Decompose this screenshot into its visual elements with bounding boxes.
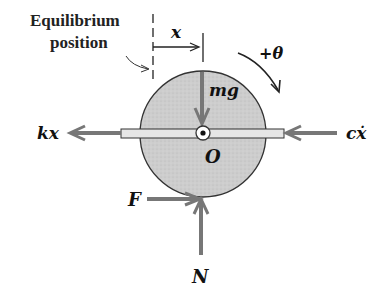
center-pin-dot xyxy=(200,130,205,135)
rotation-label: +θ xyxy=(259,44,283,63)
weight-label: mg xyxy=(209,80,239,100)
center-label: O xyxy=(205,146,221,167)
equilibrium-label-line2: position xyxy=(50,33,108,52)
damper-force-label: cẋ xyxy=(346,123,367,143)
free-body-diagram: Equilibrium position x +θ mg O kx cẋ F N xyxy=(0,0,390,306)
spring-force-label: kx xyxy=(37,123,60,143)
equilibrium-label-line1: Equilibrium xyxy=(30,11,120,30)
friction-label: F xyxy=(127,189,142,210)
displacement-label: x xyxy=(170,22,182,42)
normal-label: N xyxy=(191,266,210,287)
